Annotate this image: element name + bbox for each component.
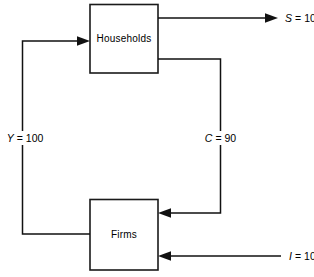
node-households-label: Households: [97, 33, 152, 44]
flow-savings-equals: =: [295, 12, 301, 24]
flow-income-label: Y=100: [7, 132, 44, 144]
flow-consumption-line-lower: [170, 145, 221, 213]
flow-investment-value: 10: [304, 250, 314, 262]
circular-flow-diagram: Households Firms S=10 C=90 Y=100 I=10: [0, 0, 314, 277]
flow-income-symbol: Y: [7, 132, 15, 144]
flow-consumption-arrowhead: [158, 208, 171, 217]
flow-savings-label: S=10: [285, 12, 314, 24]
flow-income-value: 100: [26, 132, 44, 144]
flow-investment-equals: =: [295, 250, 301, 262]
flow-savings-arrowhead: [265, 13, 278, 22]
flow-income-equals: =: [17, 132, 23, 144]
flow-income-line-upper: [23, 41, 79, 131]
flow-consumption-label: C=90: [205, 132, 237, 144]
flow-consumption-value: 90: [225, 132, 237, 144]
flow-consumption-equals: =: [215, 132, 221, 144]
flow-consumption-line-upper: [158, 59, 221, 131]
flow-investment-arrowhead: [158, 251, 171, 260]
flow-income-arrowhead: [77, 36, 90, 45]
flow-savings-symbol: S: [285, 12, 292, 24]
flow-consumption-symbol: C: [205, 132, 213, 144]
flow-savings-value: 10: [304, 12, 314, 24]
flow-income-line-lower: [23, 145, 91, 234]
diagram-canvas: Households Firms S=10 C=90 Y=100 I=10: [0, 0, 314, 277]
flow-investment-symbol: I: [289, 250, 292, 262]
node-firms-label: Firms: [111, 229, 137, 240]
flow-investment-label: I=10: [289, 250, 314, 262]
